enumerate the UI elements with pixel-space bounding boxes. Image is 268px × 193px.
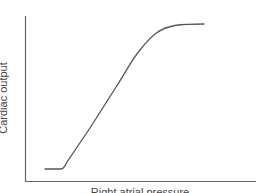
cardiac-function-chart: Cardiac output Right atrial pressure bbox=[0, 0, 268, 193]
cardiac-output-curve bbox=[45, 24, 204, 169]
chart-canvas bbox=[0, 0, 268, 193]
x-axis-label: Right atrial pressure bbox=[91, 186, 189, 193]
